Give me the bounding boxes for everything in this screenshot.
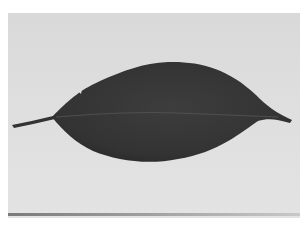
- bottom-edge-strip: [8, 213, 300, 216]
- leaf-photo: [8, 13, 300, 218]
- leaf-petiole: [12, 116, 55, 128]
- leaf-blade: [52, 62, 292, 162]
- leaf-illustration: [8, 13, 300, 218]
